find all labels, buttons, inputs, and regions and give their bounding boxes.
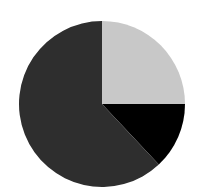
pie-slice-1 — [102, 21, 185, 104]
pie-chart — [0, 0, 202, 196]
pie-chart-svg — [0, 0, 202, 196]
